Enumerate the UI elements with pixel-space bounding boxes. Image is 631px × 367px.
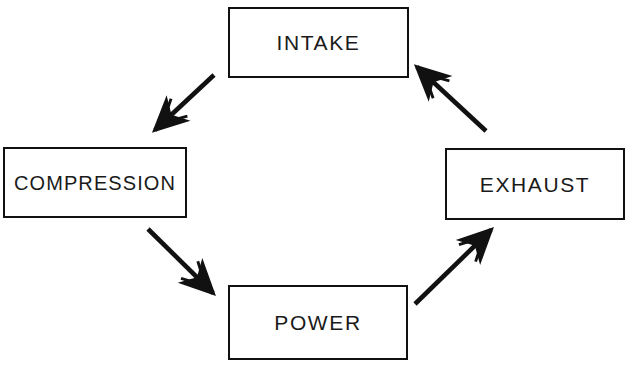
node-power-label: POWER	[274, 312, 361, 333]
node-intake-label: INTAKE	[277, 32, 361, 53]
arrow-compression-to-power	[148, 229, 213, 293]
arrow-power-to-exhaust	[415, 230, 491, 304]
arrow-intake-to-compression	[155, 75, 214, 130]
node-compression: COMPRESSION	[3, 147, 187, 218]
node-intake: INTAKE	[228, 7, 409, 78]
cycle-diagram: INTAKE COMPRESSION EXHAUST POWER	[0, 0, 631, 367]
node-power: POWER	[228, 285, 408, 360]
node-exhaust: EXHAUST	[445, 148, 625, 220]
arrow-exhaust-to-intake	[417, 67, 486, 131]
node-exhaust-label: EXHAUST	[480, 174, 590, 195]
node-compression-label: COMPRESSION	[14, 173, 176, 193]
